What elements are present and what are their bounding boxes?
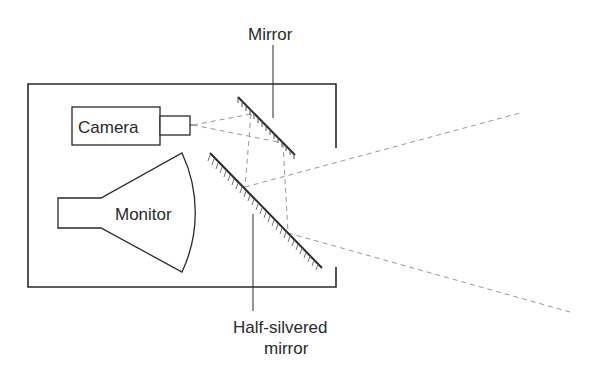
camera-label: Camera — [78, 118, 139, 137]
half-silvered-label-line1: Half-silvered — [233, 318, 327, 337]
light-paths — [193, 113, 570, 312]
teleprompter-diagram: Mirror Camera Monitor Half-silvered mirr… — [0, 0, 595, 377]
monitor-label: Monitor — [115, 205, 172, 224]
mirror — [238, 97, 295, 159]
half-silvered-label-line2: mirror — [264, 339, 309, 358]
mirror-label: Mirror — [248, 25, 293, 44]
half-silvered-mirror — [208, 153, 322, 270]
